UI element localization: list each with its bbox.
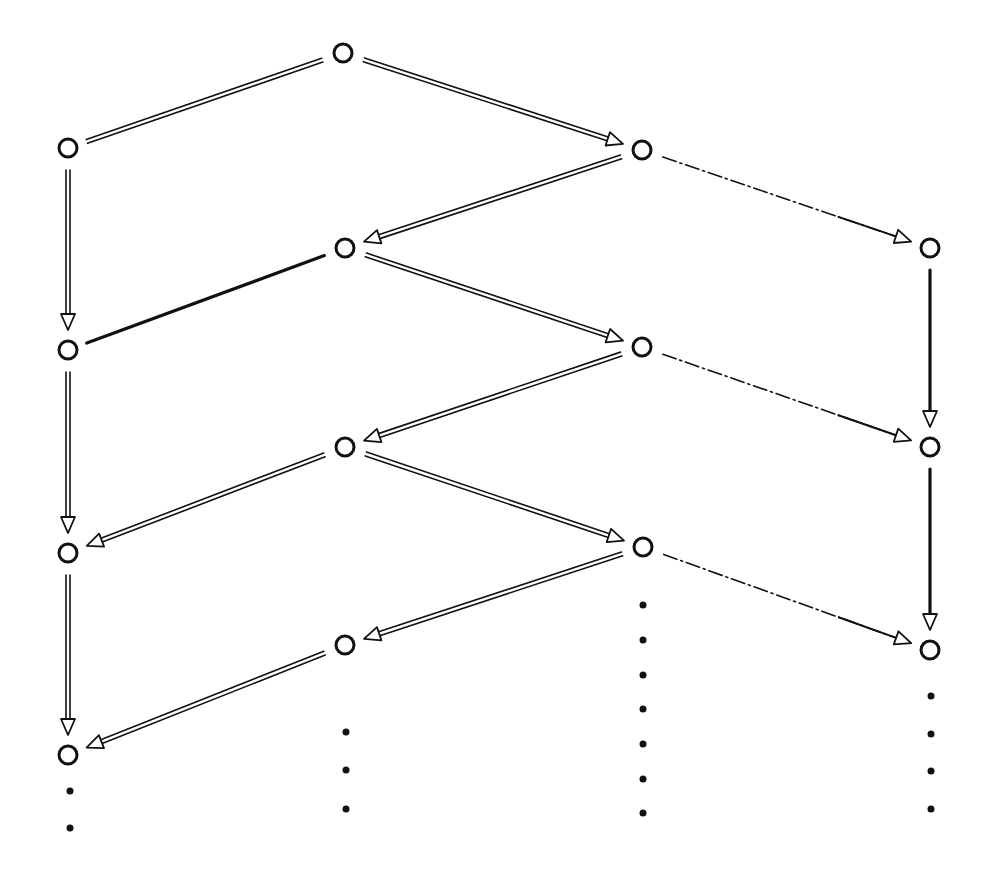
continuation-dot-b-2 [343, 806, 350, 813]
node-d3 [921, 641, 939, 659]
diagram-canvas [0, 0, 985, 875]
arrowhead-icon [923, 411, 937, 427]
arrowhead-icon [607, 529, 624, 542]
continuation-dots-layer [67, 602, 935, 832]
edge-c3-b3 [364, 552, 623, 640]
edge-t-c1 [363, 58, 623, 146]
node-a4 [59, 746, 77, 764]
continuation-dot-d-2 [928, 768, 935, 775]
continuation-dot-c-3 [640, 706, 647, 713]
edge-t-a1 [86, 58, 323, 143]
edge-d1-d2 [923, 270, 937, 427]
node-c2 [633, 338, 651, 356]
continuation-dot-c-1 [640, 637, 647, 644]
arrowhead-icon [61, 517, 75, 533]
arrowhead-icon [364, 429, 381, 442]
node-a2 [59, 341, 77, 359]
arrowhead-icon [87, 735, 104, 748]
node-c3 [634, 538, 652, 556]
edge-c1-b1 [364, 155, 622, 243]
continuation-dot-c-5 [640, 776, 647, 783]
continuation-dot-d-0 [928, 693, 935, 700]
arrowhead-icon [61, 314, 75, 330]
node-d1 [921, 239, 939, 257]
node-t [334, 44, 352, 62]
edge-c1-d1 [663, 157, 911, 243]
lattice-diagram [0, 0, 985, 875]
continuation-dot-c-4 [640, 741, 647, 748]
edge-c2-d2 [663, 354, 911, 442]
node-b3 [336, 636, 354, 654]
node-a1 [59, 139, 77, 157]
continuation-dot-a-1 [67, 825, 74, 832]
edges-layer [61, 58, 937, 748]
continuation-dot-b-1 [343, 767, 350, 774]
arrowhead-icon [894, 230, 911, 243]
arrowhead-icon [606, 132, 623, 145]
edge-b2-a3 [87, 453, 325, 547]
node-a3 [59, 544, 77, 562]
arrowhead-icon [606, 329, 623, 342]
edge-a2-a3 [61, 372, 75, 533]
continuation-dot-d-3 [928, 806, 935, 813]
continuation-dot-c-0 [640, 602, 647, 609]
continuation-dot-c-6 [640, 810, 647, 817]
node-d2 [921, 438, 939, 456]
arrowhead-icon [364, 230, 381, 243]
edge-c3-d3 [664, 554, 911, 644]
arrowhead-icon [894, 631, 911, 644]
node-b2 [336, 438, 354, 456]
edge-b2-c3 [365, 452, 624, 542]
node-c1 [633, 141, 651, 159]
continuation-dot-a-0 [67, 788, 74, 795]
edge-a1-a2 [61, 170, 75, 330]
arrowhead-icon [894, 429, 911, 442]
continuation-dot-d-1 [928, 731, 935, 738]
edge-a3-a4 [61, 575, 75, 735]
continuation-dot-c-2 [640, 672, 647, 679]
arrowhead-icon [61, 719, 75, 735]
arrowhead-icon [923, 614, 937, 630]
edge-b1-c2 [365, 253, 623, 342]
arrowhead-icon [87, 534, 104, 547]
edge-b1-a2 [87, 256, 325, 343]
edge-b3-a4 [87, 651, 326, 748]
node-b1 [336, 239, 354, 257]
edge-c2-b2 [364, 352, 622, 442]
continuation-dot-b-0 [343, 729, 350, 736]
arrowhead-icon [364, 627, 381, 640]
edge-d2-d3 [923, 469, 937, 630]
